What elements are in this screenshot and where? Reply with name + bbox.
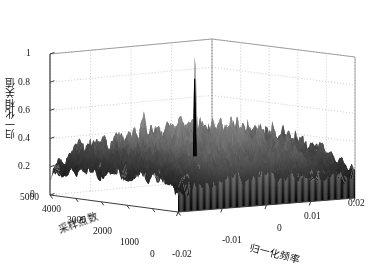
x-tick-label: 3000: [67, 216, 86, 226]
y-tick-label: -0.01: [222, 236, 242, 246]
y-tick-label: 0: [277, 224, 282, 234]
z-tick-label: 0.8: [18, 78, 30, 88]
x-tick-label: 2000: [93, 227, 112, 237]
z-tick-label: 0.6: [18, 106, 30, 116]
surface-plot-canvas: [0, 0, 385, 273]
x-tick-label: 0: [150, 250, 155, 260]
z-tick-label: 0.2: [18, 162, 30, 172]
x-tick-label: 4000: [42, 205, 61, 215]
x-tick-label: 5000: [20, 193, 39, 203]
z-axis-title: 归一化相关值: [4, 78, 18, 139]
z-tick-label: 0.4: [18, 134, 30, 144]
y-tick-label: 0.02: [348, 199, 365, 209]
figure-container: 归一化相关值 采样点数 归一化频率 10.80.60.40.2050004000…: [0, 0, 385, 273]
x-tick-label: 1000: [120, 238, 139, 248]
y-tick-label: -0.02: [172, 250, 192, 260]
y-tick-label: 0.01: [304, 212, 321, 222]
z-tick-label: 1: [26, 49, 31, 59]
